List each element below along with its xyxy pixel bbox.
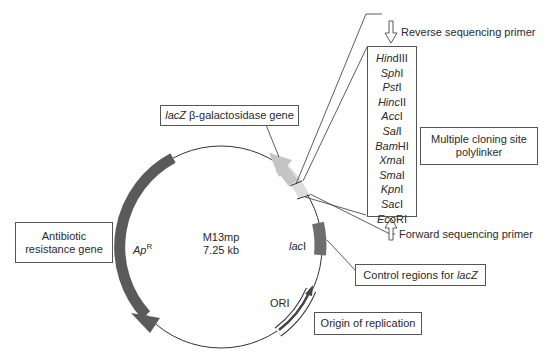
- polylinker-site-list: HindIII SphI PstI HincII AccI SalI BamHI…: [367, 46, 417, 217]
- site-psti: PstI: [368, 80, 416, 95]
- origin-callout: Origin of replication: [314, 312, 422, 335]
- reverse-primer-label: Reverse sequencing primer: [401, 26, 536, 39]
- reverse-primer-arrow-icon: [385, 21, 397, 43]
- site-hindiii: HindIII: [368, 51, 416, 66]
- plasmid-name: M13mp 7.25 kb: [198, 231, 244, 257]
- lacz-gene-callout: lacZ β-galactosidase gene: [160, 105, 299, 126]
- site-xmai: XmaI: [368, 153, 416, 168]
- apr-label: ApR: [133, 240, 152, 257]
- apr-arrowhead: [131, 313, 160, 333]
- site-ecori: EcoRI: [368, 212, 416, 227]
- plasmid-name-text: M13mp: [198, 231, 244, 244]
- site-kpni: KpnI: [368, 182, 416, 197]
- site-smai: SmaI: [368, 168, 416, 183]
- site-sphi: SphI: [368, 66, 416, 81]
- control-regions-callout: Control regions for lacZ: [355, 264, 486, 286]
- mcs-callout: Multiple cloning site polylinker: [420, 127, 538, 165]
- site-saci: SacI: [368, 197, 416, 212]
- laci-label: lacI: [289, 240, 306, 253]
- laci-gene-block: [318, 223, 320, 255]
- site-acci: AccI: [368, 109, 416, 124]
- apr-gene-arc: [120, 158, 173, 315]
- site-hincii: HincII: [368, 95, 416, 110]
- plasmid-size: 7.25 kb: [198, 244, 244, 257]
- ori-label: ORI: [270, 297, 290, 310]
- antibiotic-resistance-callout: Antibiotic resistance gene: [15, 222, 113, 263]
- forward-primer-label: Forward sequencing primer: [399, 228, 533, 241]
- site-sali: SalI: [368, 124, 416, 139]
- site-bamhi: BamHI: [368, 139, 416, 154]
